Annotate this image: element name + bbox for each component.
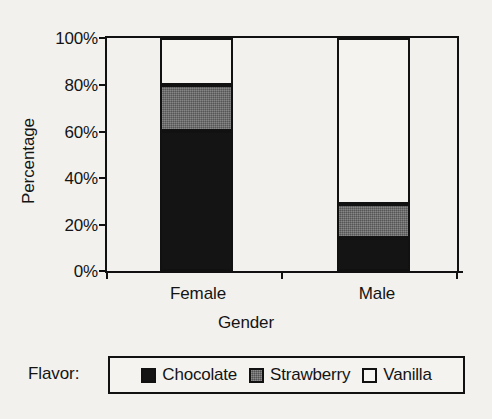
- stacked-bar-chart: Percentage 100% 80% 60% 40% 20% 0%: [0, 0, 492, 419]
- y-tick-label-60: 60%: [36, 124, 98, 141]
- x-category-label-male: Male: [297, 284, 457, 304]
- y-axis-line: [105, 36, 107, 273]
- y-tick-mark-0: [99, 270, 106, 272]
- y-tick-mark-20: [99, 224, 106, 226]
- legend-label-vanilla: Vanilla: [383, 365, 431, 385]
- bar-male-segment-strawberry[interactable]: [337, 204, 410, 238]
- legend-swatch-strawberry-icon: [249, 368, 264, 383]
- x-axis-line: [105, 271, 463, 273]
- legend-item-vanilla[interactable]: Vanilla: [362, 365, 431, 385]
- bar-female-segment-vanilla[interactable]: [160, 38, 233, 85]
- legend-swatch-chocolate-icon: [141, 368, 156, 383]
- legend-box: Chocolate Strawberry Vanilla: [108, 356, 465, 394]
- y-tick-label-40: 40%: [36, 170, 98, 187]
- legend-swatch-vanilla-icon: [362, 368, 377, 383]
- bar-male-segment-vanilla[interactable]: [337, 38, 410, 204]
- legend-item-strawberry[interactable]: Strawberry: [249, 365, 350, 385]
- legend: Flavor: Chocolate Strawberry Vanilla: [0, 354, 492, 398]
- legend-item-chocolate[interactable]: Chocolate: [141, 365, 237, 385]
- legend-label-chocolate: Chocolate: [162, 365, 237, 385]
- y-tick-label-20: 20%: [36, 217, 98, 234]
- x-tick-mark-right: [456, 271, 458, 279]
- bar-female-segment-strawberry[interactable]: [160, 85, 233, 131]
- y-tick-mark-100: [99, 37, 106, 39]
- y-tick-label-100: 100%: [36, 30, 98, 47]
- x-category-label-female: Female: [118, 284, 278, 304]
- plot-area: [107, 38, 458, 271]
- y-tick-mark-80: [99, 84, 106, 86]
- x-tick-mark-middle: [281, 271, 283, 279]
- bar-male-segment-chocolate[interactable]: [337, 238, 410, 271]
- plot-right-border: [457, 36, 459, 271]
- legend-title: Flavor:: [28, 364, 79, 384]
- y-tick-mark-40: [99, 177, 106, 179]
- bar-female-segment-chocolate[interactable]: [160, 131, 233, 271]
- y-tick-mark-60: [99, 131, 106, 133]
- y-tick-label-0: 0%: [36, 263, 98, 280]
- legend-label-strawberry: Strawberry: [270, 365, 350, 385]
- x-axis-title: Gender: [0, 313, 492, 333]
- y-tick-label-80: 80%: [36, 77, 98, 94]
- bar-male[interactable]: [337, 38, 410, 271]
- x-tick-mark-left: [106, 271, 108, 279]
- bar-female[interactable]: [160, 38, 233, 271]
